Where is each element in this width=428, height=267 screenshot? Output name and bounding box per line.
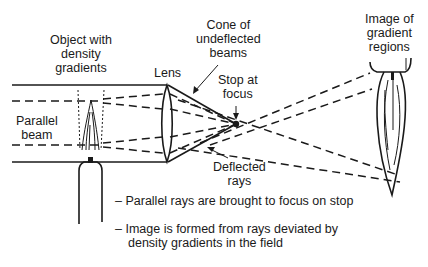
object-region-outline xyxy=(78,90,104,150)
ray-upper-b xyxy=(103,103,163,109)
object-label: Object with density gradients xyxy=(50,33,112,75)
parallel-beam-label: Parallel beam xyxy=(16,114,58,142)
deflected-label-line: Deflected xyxy=(213,160,266,174)
stop-label: Stop at focus xyxy=(218,73,258,101)
lens-label: Lens xyxy=(154,66,181,80)
note-line: – Parallel rays are brought to focus on … xyxy=(115,194,353,208)
object-label-line: density xyxy=(50,47,112,61)
note-focus: – Parallel rays are brought to focus on … xyxy=(115,194,353,208)
image-label-line: regions xyxy=(365,40,414,54)
cone-label-line: Cone of xyxy=(196,18,261,32)
deflected-label: Deflected rays xyxy=(213,160,266,188)
note-line: – Image is formed from rays deviated by xyxy=(115,222,338,236)
deflected-label-line: rays xyxy=(213,174,266,188)
stop-pointer-arrow xyxy=(233,106,239,120)
conv-ray-2 xyxy=(170,109,236,124)
ray-upper-a xyxy=(103,94,163,99)
cone-label-line: beams xyxy=(196,46,261,60)
stop-dot-icon xyxy=(233,121,239,127)
image-label-line: Image of xyxy=(365,12,414,26)
image-label-line: gradient xyxy=(365,26,414,40)
image-label: Image of gradient regions xyxy=(365,12,414,54)
note-image: – Image is formed from rays deviated by … xyxy=(115,222,338,250)
flame-image-icon xyxy=(370,58,411,195)
stop-label-line: focus xyxy=(218,87,258,101)
conv-ray-3 xyxy=(170,124,236,137)
burner-icon xyxy=(79,157,102,224)
stop-label-line: Stop at xyxy=(218,73,258,87)
object-label-line: Object with xyxy=(50,33,112,47)
ray-lower-a xyxy=(103,137,163,143)
cone-label-line: undeflected xyxy=(196,32,261,46)
parallel-beam-label-line: beam xyxy=(16,128,58,142)
note-line: density gradients in the field xyxy=(115,236,338,250)
parallel-beam-label-line: Parallel xyxy=(16,114,58,128)
ray-lower-b xyxy=(103,147,163,153)
flame-icon xyxy=(82,100,99,150)
cone-lower-edge xyxy=(168,124,236,162)
cone-label: Cone of undeflected beams xyxy=(196,18,261,60)
lens-icon xyxy=(162,85,173,162)
object-label-line: gradients xyxy=(50,61,112,75)
cone-pointer-arrow xyxy=(193,65,218,94)
